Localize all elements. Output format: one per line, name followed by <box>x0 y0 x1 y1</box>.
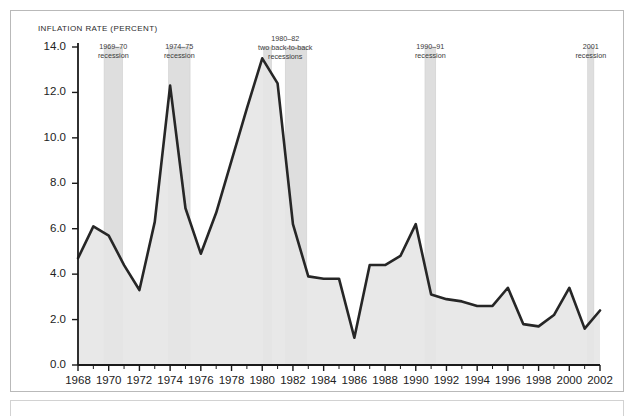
recession-2001-label: 2001recession <box>541 42 636 60</box>
y-axis-tick-label: 8.0 <box>24 176 66 188</box>
x-axis-tick-label: 2002 <box>577 374 623 386</box>
recession-1974-75-label-line2: recession <box>129 51 229 60</box>
recession-1974-75-label: 1974–75recession <box>129 42 229 60</box>
recession-2001-label-line2: recession <box>541 51 636 60</box>
recession-2001-label-line1: 2001 <box>541 42 636 51</box>
y-axis-tick-label: 4.0 <box>24 267 66 279</box>
y-axis-tick-label: 14.0 <box>24 40 66 52</box>
recession-1974-75-label-line1: 1974–75 <box>129 42 229 51</box>
y-axis-tick-label: 6.0 <box>24 222 66 234</box>
recession-1980-82-label: 1980–82two back-to-backrecessions <box>235 34 335 61</box>
y-axis-tick-label: 0.0 <box>24 358 66 370</box>
recession-1980-82-label-line2: two back-to-back <box>235 43 335 52</box>
y-axis-tick-label: 10.0 <box>24 131 66 143</box>
recession-1990-91-label: 1990–91recession <box>380 42 480 60</box>
recession-1980-82-label-line1: 1980–82 <box>235 34 335 43</box>
recession-1990-91-label-line2: recession <box>380 51 480 60</box>
y-axis-tick-label: 12.0 <box>24 85 66 97</box>
recession-1990-91-label-line1: 1990–91 <box>380 42 480 51</box>
recession-1980-82-label-line3: recessions <box>235 52 335 61</box>
y-axis-tick-label: 2.0 <box>24 313 66 325</box>
